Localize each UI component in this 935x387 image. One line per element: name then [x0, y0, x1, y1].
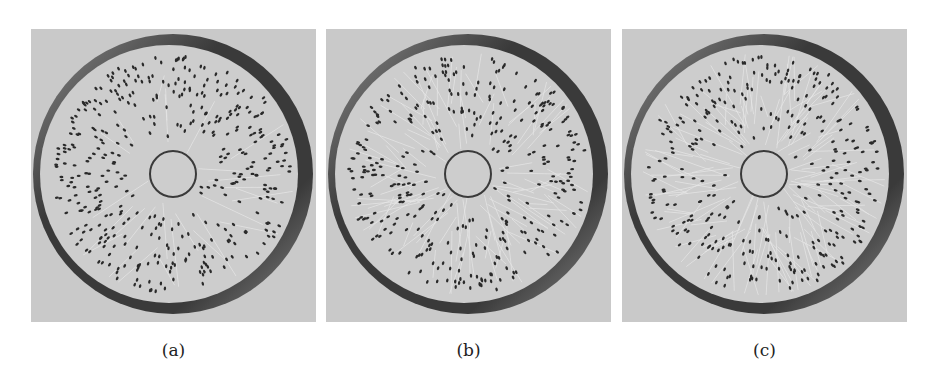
caption-a: (a) — [31, 340, 316, 360]
panel-b-image — [326, 29, 611, 322]
caption-c: (c) — [622, 340, 907, 360]
panel-c-image — [622, 29, 907, 322]
caption-b: (b) — [326, 340, 611, 360]
panel-a-image — [31, 29, 316, 322]
